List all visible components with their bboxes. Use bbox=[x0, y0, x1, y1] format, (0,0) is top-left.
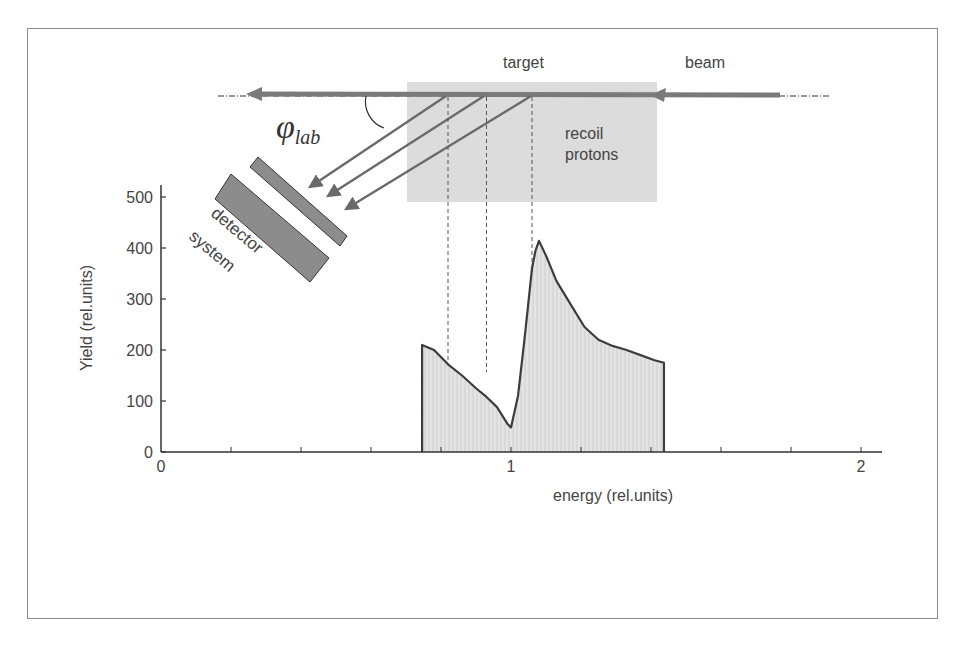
y-tick-label: 100 bbox=[126, 393, 153, 410]
energy-histogram bbox=[422, 241, 664, 452]
y-tick-label: 300 bbox=[126, 291, 153, 308]
x-axis-ticks: 012 bbox=[157, 447, 866, 475]
x-tick-label: 0 bbox=[157, 458, 166, 475]
beam-line bbox=[254, 94, 780, 95]
y-tick-label: 200 bbox=[126, 342, 153, 359]
x-tick-label: 1 bbox=[507, 458, 516, 475]
beam-label: beam bbox=[685, 54, 725, 71]
x-tick-label: 2 bbox=[857, 458, 866, 475]
y-tick-label: 500 bbox=[126, 189, 153, 206]
phi-symbol: φlab bbox=[276, 108, 320, 148]
y-tick-label: 0 bbox=[144, 444, 153, 461]
target-label: target bbox=[503, 54, 544, 71]
x-axis-label: energy (rel.units) bbox=[553, 487, 673, 504]
y-axis-ticks: 0100200300400500 bbox=[126, 189, 166, 461]
recoil-label-line1: recoil bbox=[565, 125, 603, 142]
y-tick-label: 400 bbox=[126, 240, 153, 257]
recoil-label-line2: protons bbox=[565, 146, 618, 163]
y-axis-label: Yield (rel.units) bbox=[78, 265, 95, 371]
figure-canvas: target beam φlab recoil protons detector… bbox=[0, 0, 959, 650]
phi-angle-arc bbox=[365, 96, 384, 128]
beam-arrow-head-left bbox=[246, 87, 262, 101]
